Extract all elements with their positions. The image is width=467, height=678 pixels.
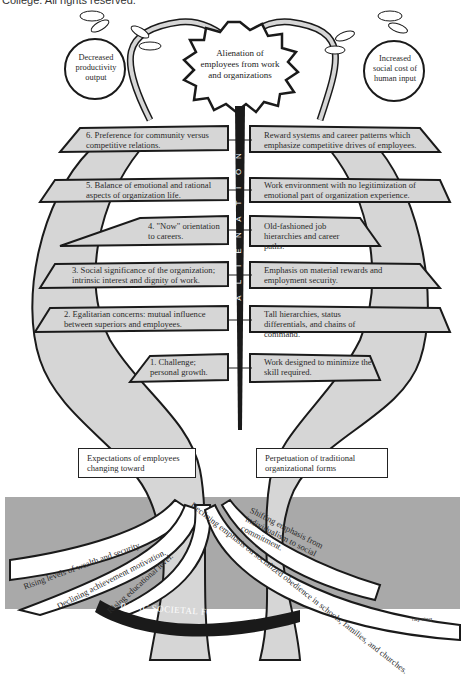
artist-signature: ray ring [412,616,432,622]
perpetuation-box: Perpetuation of traditional organization… [256,448,388,478]
left-branch-4: 4. "Now" orientation to careers. [148,221,228,241]
fruit-left-text: Decreased productivity output [70,53,122,83]
fruit-center-text: Alienation of employees from work and or… [200,48,280,81]
left-branch-5: 5. Balance of emotional and rational asp… [86,180,226,200]
right-branch-1: Work designed to minimize the skill requ… [264,357,374,377]
alienation-vertical-label: NOI TAN EIL A [233,152,245,302]
left-branch-1: 1. Challenge; personal growth. [150,357,226,377]
right-branch-3: Emphasis on material rewards and employm… [264,265,394,285]
right-branch-5: Work environment with no legitimization … [264,180,444,200]
expectations-box: Expectations of employees changing towar… [78,448,196,478]
right-branch-2: Tall hierarchies, status differentials, … [264,309,384,339]
left-branch-6: 6. Preference for community versus compe… [86,130,226,150]
left-branch-2: 2. Egalitarian concerns: mutual influenc… [64,309,228,329]
fruit-right-text: Increased social cost of human input [370,54,420,84]
right-branch-4: Old-fashioned job hierarchies and career… [264,221,354,251]
right-branch-6: Reward systems and career patterns which… [264,130,434,150]
left-branch-3: 3. Social significance of the organizati… [72,265,228,285]
